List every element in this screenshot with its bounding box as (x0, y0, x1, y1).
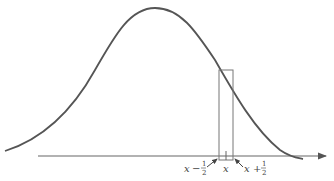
label-upper-num: 1 (262, 160, 266, 168)
label-lower-op: − (192, 163, 200, 174)
label-upper-op: + (253, 163, 261, 174)
label-lower-den: 2 (202, 169, 206, 177)
label-upper-den: 2 (262, 169, 266, 177)
probability-bar (219, 70, 233, 160)
label-lower-num: 1 (202, 160, 206, 168)
normal-curve (5, 8, 303, 159)
diagram-canvas: x − 1 2 x x + 1 2 (0, 0, 334, 181)
normal-curve-diagram: x − 1 2 x x + 1 2 (0, 0, 334, 181)
label-lower-var: x (184, 163, 190, 174)
label-center: x (223, 163, 229, 174)
left-pointer-arrow (207, 159, 217, 167)
label-upper-var: x (244, 163, 250, 174)
right-pointer-arrow (235, 159, 243, 167)
